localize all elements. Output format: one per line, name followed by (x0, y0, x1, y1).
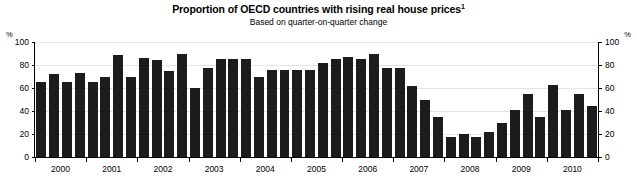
y-axis-tick-label-right: 100 (605, 38, 631, 47)
bar (343, 57, 353, 157)
x-axis-year-label: 2003 (198, 164, 230, 174)
x-axis-tick-mark (342, 158, 343, 162)
bar (228, 59, 238, 157)
y-axis-tick-mark-right (599, 157, 602, 158)
bar (254, 77, 264, 158)
x-axis-tick-mark (137, 158, 138, 162)
bar (190, 88, 200, 157)
x-axis-tick-mark (547, 158, 548, 162)
bar (49, 74, 59, 157)
bar (88, 82, 98, 157)
bar (139, 58, 149, 157)
y-axis-tick-mark-left (32, 65, 35, 66)
y-axis-tick-mark-left (32, 88, 35, 89)
x-axis-tick-mark (291, 158, 292, 162)
y-axis-tick-mark-right (599, 111, 602, 112)
bar (100, 77, 110, 158)
y-axis-tick-mark-left (32, 111, 35, 112)
bar (420, 100, 430, 158)
bar (510, 110, 520, 157)
y-axis-tick-label-left: 80 (3, 61, 29, 70)
bar (395, 68, 405, 157)
bar (305, 70, 315, 157)
y-axis-tick-label-right: 20 (605, 130, 631, 139)
x-axis-tick-mark (240, 158, 241, 162)
bar (331, 59, 341, 157)
bar (459, 134, 469, 157)
bar (497, 123, 507, 158)
bar (280, 70, 290, 157)
x-axis-year-label: 2000 (45, 164, 77, 174)
y-axis-tick-mark-right (599, 88, 602, 89)
x-axis-year-label: 2006 (352, 164, 384, 174)
bar (177, 54, 187, 158)
y-axis-tick-label-right: 80 (605, 61, 631, 70)
bar (75, 73, 85, 157)
bar (267, 70, 277, 157)
y-axis-tick-label-left: 20 (3, 130, 29, 139)
y-axis-tick-mark-left (32, 42, 35, 43)
bar (535, 117, 545, 157)
x-axis-year-label: 2010 (556, 164, 588, 174)
y-axis-tick-label-right: 0 (605, 153, 631, 162)
y-axis-tick-mark-right (599, 65, 602, 66)
x-axis-year-label: 2005 (301, 164, 333, 174)
x-axis-tick-mark (444, 158, 445, 162)
bar (216, 59, 226, 157)
x-axis-year-label: 2008 (454, 164, 486, 174)
x-axis-year-label: 2004 (249, 164, 281, 174)
y-axis-tick-label-right: 60 (605, 84, 631, 93)
x-axis-tick-mark (189, 158, 190, 162)
y-axis-tick-label-right: 40 (605, 107, 631, 116)
bar (587, 106, 597, 157)
bar (292, 70, 302, 157)
bar (407, 86, 417, 157)
gridline (35, 42, 598, 43)
bar (113, 55, 123, 157)
bar (126, 77, 136, 158)
y-axis-tick-mark-right (599, 42, 602, 43)
x-axis-year-label: 2009 (505, 164, 537, 174)
bar (203, 68, 213, 157)
bar (446, 137, 456, 157)
bar (433, 117, 443, 157)
x-axis-tick-mark (496, 158, 497, 162)
bar (561, 110, 571, 157)
y-axis-tick-label-left: 100 (3, 38, 29, 47)
y-axis-tick-label-left: 60 (3, 84, 29, 93)
y-axis-left-spine (34, 42, 35, 158)
chart-title: Proportion of OECD countries with rising… (0, 3, 637, 15)
bar (356, 59, 366, 157)
y-axis-tick-label-left: 40 (3, 107, 29, 116)
chart-title-text: Proportion of OECD countries with rising… (172, 3, 461, 15)
x-axis-tick-mark (35, 158, 36, 162)
bar (36, 82, 46, 157)
x-axis-year-label: 2001 (96, 164, 128, 174)
bar (548, 85, 558, 157)
bar (241, 59, 251, 157)
y-axis-tick-mark-left (32, 134, 35, 135)
y-axis-right-spine (598, 42, 599, 158)
bar (484, 132, 494, 157)
x-axis-tick-mark (86, 158, 87, 162)
x-axis-year-label: 2007 (403, 164, 435, 174)
bar (369, 54, 379, 158)
bar (62, 82, 72, 157)
x-axis-year-label: 2002 (147, 164, 179, 174)
chart-figure: Proportion of OECD countries with rising… (0, 0, 637, 183)
bar (152, 60, 162, 157)
bar (318, 63, 328, 157)
bar (164, 71, 174, 157)
y-axis-tick-mark-right (599, 134, 602, 135)
x-axis-tick-mark (393, 158, 394, 162)
bar (382, 68, 392, 157)
bar (574, 94, 584, 157)
x-axis-tick-mark (598, 158, 599, 162)
bar (523, 94, 533, 157)
chart-subtitle: Based on quarter-on-quarter change (0, 17, 637, 27)
x-axis-baseline (35, 157, 598, 158)
bar (471, 137, 481, 157)
chart-title-footnote-marker: 1 (461, 3, 465, 10)
y-axis-tick-label-left: 0 (3, 153, 29, 162)
plot-area (35, 42, 598, 157)
